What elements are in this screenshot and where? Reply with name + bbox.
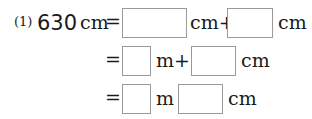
quantity: 630 (37, 13, 77, 34)
equals-sign: = (105, 88, 121, 107)
unit-label: m (156, 89, 174, 108)
unit-label: cm (241, 51, 270, 70)
answer-box-cm[interactable] (178, 84, 223, 114)
unit-label: cm (278, 13, 307, 32)
answer-box-cm[interactable] (191, 46, 236, 76)
equals-sign: = (105, 50, 121, 69)
unit-label: cm (228, 89, 257, 108)
answer-box-m[interactable] (122, 84, 151, 114)
answer-box-cm-2[interactable] (227, 8, 273, 38)
answer-box-m[interactable] (122, 46, 151, 76)
answer-box-cm-1[interactable] (122, 8, 187, 38)
problem-label: (1) (14, 15, 32, 28)
unit-label: m+ (156, 51, 190, 70)
equals-sign: = (105, 12, 121, 31)
